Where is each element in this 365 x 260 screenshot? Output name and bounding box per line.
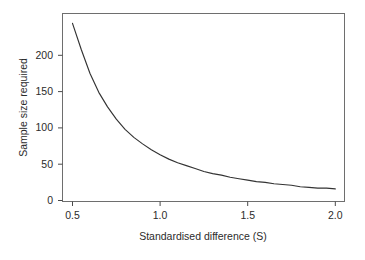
- x-tick-label-0-5: 0.5: [65, 209, 80, 221]
- y-tick-label-150: 150: [35, 85, 53, 97]
- plot-frame: [63, 14, 345, 202]
- sample-size-line-chart: 0 50 100 150 200 0.5 1.0 1.5 2.0 Standar…: [0, 0, 365, 260]
- y-axis-ticks: [58, 55, 63, 200]
- y-tick-label-0: 0: [47, 194, 53, 206]
- y-tick-label-50: 50: [41, 158, 53, 170]
- figure-container: 0 50 100 150 200 0.5 1.0 1.5 2.0 Standar…: [0, 0, 365, 260]
- x-tick-label-1-5: 1.5: [240, 209, 255, 221]
- x-axis-tick-labels: 0.5 1.0 1.5 2.0: [65, 209, 343, 221]
- x-tick-label-1-0: 1.0: [153, 209, 168, 221]
- y-tick-label-100: 100: [35, 121, 53, 133]
- sample-size-curve: [73, 23, 336, 189]
- y-axis-tick-labels: 0 50 100 150 200: [35, 49, 53, 206]
- y-tick-label-200: 200: [35, 49, 53, 61]
- x-axis-title: Standardised difference (S): [139, 230, 267, 242]
- y-axis-title: Sample size required: [17, 58, 29, 157]
- x-tick-label-2-0: 2.0: [328, 209, 343, 221]
- x-axis-ticks: [73, 202, 336, 207]
